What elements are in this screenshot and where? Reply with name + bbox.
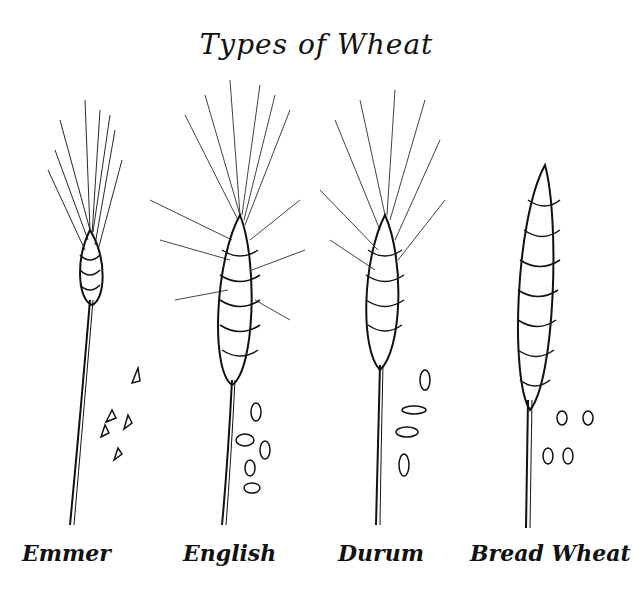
wheat-illustration: [0, 0, 633, 600]
label-bread-wheat: Bread Wheat: [470, 540, 631, 566]
durum-grains: [396, 370, 430, 476]
english-grains: [236, 403, 270, 493]
label-durum: Durum: [338, 540, 424, 566]
emmer-grains: [101, 368, 140, 460]
label-emmer: Emmer: [22, 540, 111, 566]
durum-stalk: [320, 90, 445, 525]
bread-wheat-grains: [543, 411, 593, 464]
label-english: English: [183, 540, 276, 566]
bread-wheat-stalk: [518, 165, 560, 528]
emmer-stalk: [48, 100, 122, 525]
english-stalk: [150, 80, 305, 525]
